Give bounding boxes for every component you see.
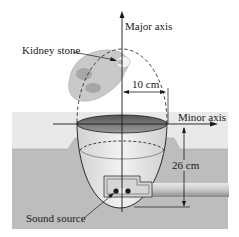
sound-source-focus-point <box>113 188 118 193</box>
major-axis-label: Major axis <box>125 21 172 32</box>
kidney-stone-label: Kidney stone <box>22 45 80 56</box>
kidney-illustration <box>69 50 130 101</box>
semi-minor-dimension-label: 10 cm <box>132 79 159 90</box>
sound-source-label: Sound source <box>26 213 86 224</box>
minor-axis-label: Minor axis <box>178 112 226 123</box>
focal-depth-dimension-label: 26 cm <box>172 160 199 171</box>
